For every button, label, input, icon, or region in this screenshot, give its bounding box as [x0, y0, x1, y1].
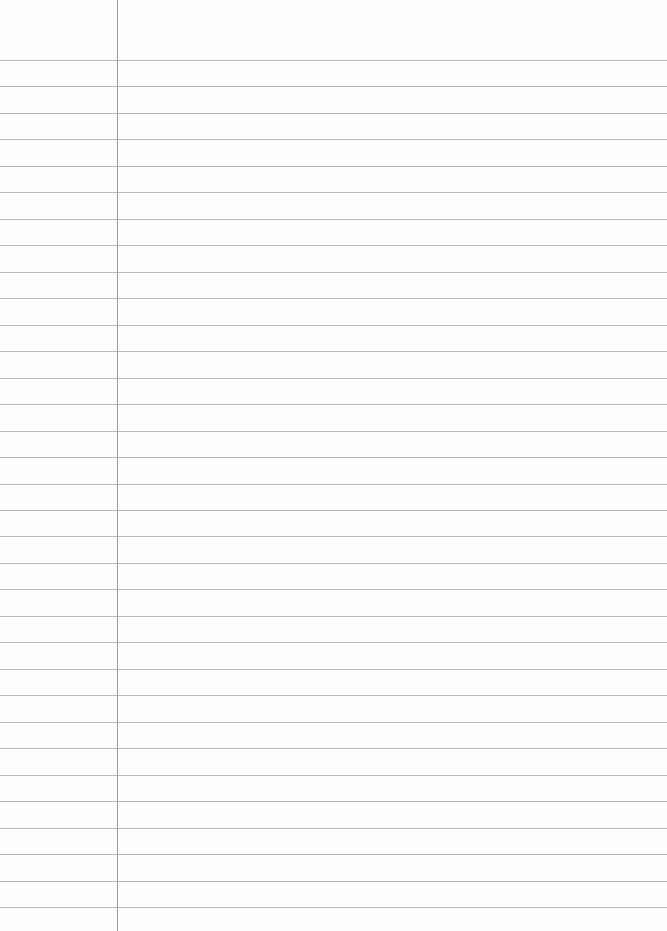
- margin-line: [117, 0, 118, 931]
- ruled-line: [0, 166, 667, 167]
- ruled-line: [0, 60, 667, 61]
- ruled-line: [0, 616, 667, 617]
- ruled-line: [0, 272, 667, 273]
- ruled-line: [0, 695, 667, 696]
- ruled-line: [0, 219, 667, 220]
- ruled-line: [0, 192, 667, 193]
- ruled-line: [0, 669, 667, 670]
- ruled-line: [0, 563, 667, 564]
- ruled-line: [0, 510, 667, 511]
- ruled-line: [0, 484, 667, 485]
- ruled-line: [0, 589, 667, 590]
- ruled-line: [0, 351, 667, 352]
- ruled-line: [0, 139, 667, 140]
- ruled-line: [0, 642, 667, 643]
- ruled-line: [0, 722, 667, 723]
- ruled-line: [0, 245, 667, 246]
- ruled-line: [0, 881, 667, 882]
- ruled-line: [0, 113, 667, 114]
- ruled-line: [0, 801, 667, 802]
- ruled-line: [0, 431, 667, 432]
- ruled-line: [0, 775, 667, 776]
- ruled-line: [0, 907, 667, 908]
- ruled-line: [0, 828, 667, 829]
- ruled-line: [0, 748, 667, 749]
- ruled-line: [0, 404, 667, 405]
- ruled-line: [0, 325, 667, 326]
- lined-paper: [0, 0, 667, 931]
- ruled-line: [0, 536, 667, 537]
- ruled-line: [0, 298, 667, 299]
- ruled-line: [0, 854, 667, 855]
- ruled-line: [0, 86, 667, 87]
- ruled-line: [0, 457, 667, 458]
- ruled-line: [0, 378, 667, 379]
